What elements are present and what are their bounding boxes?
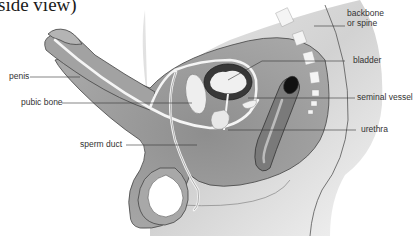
label-penis: penis bbox=[9, 71, 29, 81]
bladder-interior bbox=[210, 71, 247, 94]
label-sperm-duct: sperm duct bbox=[80, 139, 122, 149]
label-backbone-line2: or spine bbox=[347, 18, 377, 28]
label-bladder: bladder bbox=[353, 55, 381, 65]
label-urethra: urethra bbox=[361, 124, 388, 134]
label-seminal-vessel: seminal vessel bbox=[357, 92, 413, 102]
label-backbone-line1: backbone bbox=[347, 8, 384, 18]
label-pubic-bone: pubic bone bbox=[21, 97, 63, 107]
diagram-title: side view) bbox=[0, 0, 77, 16]
